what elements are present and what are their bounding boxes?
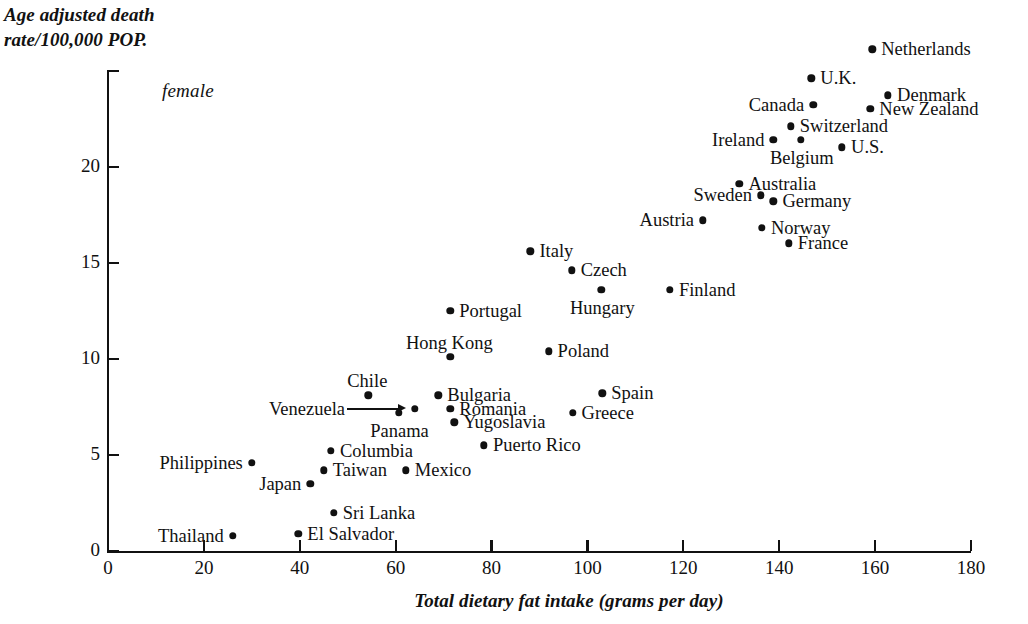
data-point-label: U.K. [820, 69, 856, 88]
y-axis-tick [108, 550, 119, 552]
x-axis-tick [778, 540, 780, 551]
data-point-label: Greece [582, 403, 634, 422]
x-axis-tick [682, 540, 684, 551]
x-axis-tick-label: 40 [274, 557, 326, 579]
x-axis-tick-label: 160 [849, 557, 901, 579]
data-point [666, 286, 673, 293]
data-point [599, 390, 606, 397]
x-axis-tick [970, 540, 972, 551]
data-point-label: Panama [370, 422, 429, 441]
data-point [435, 392, 442, 399]
data-point-label: Thailand [158, 526, 224, 545]
x-axis-tick-label: 120 [657, 557, 709, 579]
x-axis-tick [874, 540, 876, 551]
data-point [770, 197, 777, 204]
data-point [869, 46, 876, 53]
x-axis-tick-label: 80 [466, 557, 518, 579]
data-point [447, 353, 454, 360]
data-point [569, 409, 576, 416]
data-point-label: El Salvador [307, 524, 394, 543]
x-axis-tick-label: 0 [82, 557, 134, 579]
y-axis-tick-label: 5 [54, 443, 100, 465]
data-point-label: New Zealand [879, 100, 978, 119]
data-point [365, 392, 372, 399]
x-axis-title: Total dietary fat intake (grams per day) [0, 590, 1028, 612]
data-point-label: Chile [347, 372, 387, 391]
data-point [327, 447, 334, 454]
data-point [598, 286, 605, 293]
data-point [808, 74, 815, 81]
x-axis-tick [586, 540, 588, 551]
data-point-label: Poland [558, 342, 609, 361]
y-axis-tick-label: 15 [54, 251, 100, 273]
data-point [797, 136, 804, 143]
data-point [810, 101, 817, 108]
data-point-label: Finland [679, 280, 736, 299]
x-axis-tick-label: 140 [753, 557, 805, 579]
venezuela-leader-line [347, 408, 399, 410]
data-point [757, 192, 764, 199]
data-point-label: Portugal [459, 302, 522, 321]
data-point-label: Switzerland [800, 117, 888, 136]
y-axis-line [107, 70, 109, 553]
x-axis-tick [299, 540, 301, 551]
data-point-label: Philippines [160, 453, 243, 472]
y-axis-tick [108, 262, 119, 264]
data-point [411, 405, 418, 412]
data-point-label: Mexico [415, 461, 472, 480]
venezuela-leader-arrow-icon [398, 404, 406, 412]
y-axis-title: Age adjusted death rate/100,000 POP. [4, 2, 304, 52]
data-point-label: Czech [581, 261, 627, 280]
x-axis-line [107, 551, 971, 553]
data-point [787, 123, 794, 130]
data-point [758, 224, 765, 231]
x-axis-tick-label: 100 [561, 557, 613, 579]
y-axis-tick [108, 454, 119, 456]
data-point-label: Ireland [712, 130, 764, 149]
data-point-label: France [798, 234, 848, 253]
data-point-label: Venezuela [269, 400, 345, 419]
y-axis-tick [108, 166, 119, 168]
data-point [320, 467, 327, 474]
y-axis-tick-label: 20 [54, 155, 100, 177]
data-point-label: Puerto Rico [493, 436, 581, 455]
data-point [545, 347, 552, 354]
data-point-label: Japan [259, 474, 301, 493]
x-axis-tick [490, 540, 492, 551]
x-axis-tick-label: 180 [945, 557, 997, 579]
data-point-label: Belgium [770, 149, 834, 168]
data-point [447, 307, 454, 314]
data-point [770, 136, 777, 143]
y-axis-top-cap [108, 70, 119, 72]
data-point [229, 532, 236, 539]
data-point [699, 217, 706, 224]
x-axis-tick [395, 540, 397, 551]
y-axis-title-line-2: rate/100,000 POP. [4, 27, 304, 52]
x-axis-tick-label: 60 [370, 557, 422, 579]
data-point-label: Sri Lanka [343, 503, 415, 522]
y-axis-tick [108, 358, 119, 360]
data-point-label: Columbia [340, 442, 413, 461]
data-point [838, 144, 845, 151]
data-point-label: Taiwan [333, 461, 387, 480]
series-annotation-female: female [162, 80, 214, 102]
data-point [785, 240, 792, 247]
data-point-label: Hungary [570, 299, 635, 318]
data-point-label: Hong Kong [406, 334, 493, 353]
y-axis-title-line-1: Age adjusted death [4, 4, 155, 25]
data-point [307, 480, 314, 487]
data-point [295, 530, 302, 537]
data-point [402, 467, 409, 474]
data-point [480, 442, 487, 449]
scatter-plot-figure: Age adjusted death rate/100,000 POP. fem… [0, 0, 1028, 624]
data-point-label: Netherlands [881, 40, 970, 59]
data-point-label: U.S. [851, 138, 884, 157]
x-axis-tick-label: 20 [178, 557, 230, 579]
data-point-label: Italy [539, 242, 573, 261]
data-point-label: Sweden [693, 186, 752, 205]
data-point [527, 247, 534, 254]
data-point-label: Canada [749, 96, 804, 115]
data-point [867, 105, 874, 112]
data-point [447, 405, 454, 412]
data-point [568, 267, 575, 274]
